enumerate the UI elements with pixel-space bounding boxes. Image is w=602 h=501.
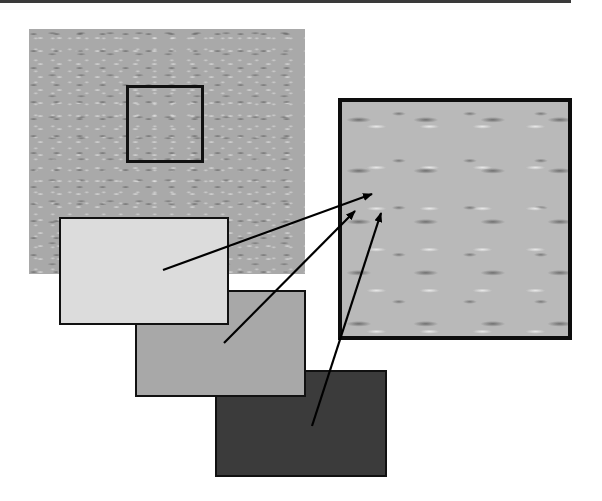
arrow-light xyxy=(163,194,372,270)
arrows-layer xyxy=(0,0,602,501)
arrow-medium xyxy=(224,211,355,343)
